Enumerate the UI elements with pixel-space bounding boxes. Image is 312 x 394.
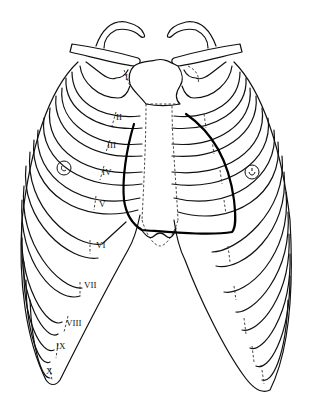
left-nipple-marker	[245, 165, 259, 179]
rib-label-7: VII	[84, 280, 97, 290]
sternum	[129, 59, 182, 246]
rib-label-6: VI	[96, 240, 106, 250]
right-ribs	[21, 62, 142, 385]
rib-label-10: X	[46, 366, 53, 376]
rib-cage-svg: I II III IV V VI VII VIII IX X	[0, 0, 312, 394]
clavicles	[70, 22, 242, 66]
rib-label-9: IX	[56, 341, 66, 351]
left-ribs	[172, 62, 291, 391]
rib-label-1: I	[125, 72, 128, 82]
rib-label-2: II	[116, 112, 122, 122]
rib-label-4: IV	[102, 167, 112, 177]
rib-label-3: III	[107, 140, 116, 150]
rib-label-5: V	[99, 199, 106, 209]
right-nipple-marker	[57, 161, 71, 175]
rib-cage-diagram: I II III IV V VI VII VIII IX X	[0, 0, 312, 394]
rib-label-8: VIII	[66, 318, 82, 328]
